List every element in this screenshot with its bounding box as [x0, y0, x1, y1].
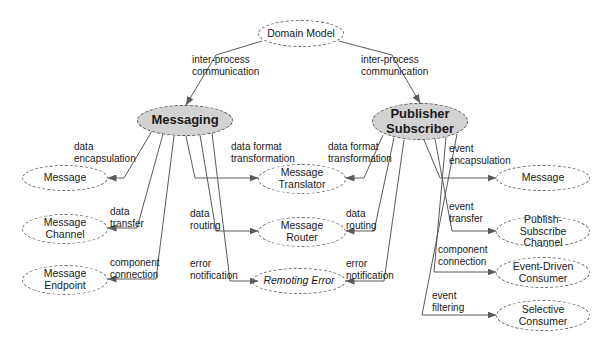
- diagram-canvas: Domain Model Messaging Publisher Subscri…: [0, 0, 605, 348]
- node-messaging[interactable]: Messaging: [137, 105, 233, 136]
- edge-label-ipc-left: inter-process communication: [192, 54, 259, 78]
- node-selective-consumer[interactable]: Selective Consumer: [496, 300, 590, 331]
- node-message-translator-label-line2: Translator: [275, 179, 330, 191]
- node-message-left-label: Message: [40, 172, 91, 184]
- node-domain-model-label: Domain Model: [263, 28, 339, 40]
- node-remoting-error[interactable]: Remoting Error: [252, 268, 346, 294]
- node-selective-consumer-label-line2: Consumer: [515, 316, 571, 328]
- edge-label-error-notification-left: error notification: [190, 258, 238, 282]
- node-message-endpoint[interactable]: Message Endpoint: [22, 265, 108, 295]
- node-domain-model[interactable]: Domain Model: [258, 20, 344, 47]
- node-publish-subscribe-channel-label-line1: Publish-Subscribe: [497, 214, 589, 238]
- node-remoting-error-label: Remoting Error: [259, 275, 338, 287]
- node-message-right-label: Message: [518, 172, 569, 184]
- node-message-channel[interactable]: Message Channel: [22, 214, 108, 244]
- node-publisher-subscriber[interactable]: Publisher Subscriber: [372, 103, 468, 140]
- node-message-endpoint-label-line2: Endpoint: [40, 280, 89, 292]
- edge-label-event-transfer: event transfer: [449, 201, 483, 225]
- node-message-channel-label-line2: Channel: [41, 229, 88, 241]
- edge-label-ipc-right: inter-process communication: [361, 54, 428, 78]
- edge-label-data-format-transformation-left: data format transformation: [231, 141, 295, 165]
- edge-label-data-encapsulation: data encapsulation: [74, 141, 136, 165]
- edge-label-data-routing-right: data routing: [346, 208, 377, 232]
- node-publish-subscribe-channel-label-line2: Channel: [519, 237, 566, 249]
- node-message-right[interactable]: Message: [496, 165, 590, 191]
- node-message-left[interactable]: Message: [22, 165, 108, 191]
- node-message-router[interactable]: Message Router: [258, 217, 346, 247]
- node-publisher-subscriber-label-line1: Publisher: [386, 107, 453, 122]
- edge-label-event-filtering: event filtering: [432, 290, 464, 314]
- node-message-router-label-line2: Router: [282, 232, 322, 244]
- node-selective-consumer-label-line1: Selective: [518, 304, 569, 316]
- node-messaging-label: Messaging: [147, 113, 222, 128]
- edge-label-component-connection-left: component connection: [110, 257, 159, 281]
- edge-label-data-transfer: data transfer: [110, 206, 144, 230]
- node-event-driven-consumer-label-line1: Event-Driven: [509, 261, 578, 273]
- node-event-driven-consumer[interactable]: Event-Driven Consumer: [496, 257, 590, 288]
- edge-label-error-notification-right: error notification: [346, 258, 394, 282]
- node-publish-subscribe-channel[interactable]: Publish-Subscribe Channel: [496, 216, 590, 247]
- node-publisher-subscriber-label-line2: Subscriber: [382, 122, 458, 137]
- edge-label-data-routing-left: data routing: [190, 208, 221, 232]
- edge-label-data-format-transformation-right: data format transformation: [328, 141, 392, 165]
- edge-label-event-encapsulation: event encapsulation: [449, 143, 511, 167]
- edge-label-component-connection-right: component connection: [438, 244, 487, 268]
- node-event-driven-consumer-label-line2: Consumer: [515, 273, 571, 285]
- node-message-translator[interactable]: Message Translator: [258, 164, 346, 194]
